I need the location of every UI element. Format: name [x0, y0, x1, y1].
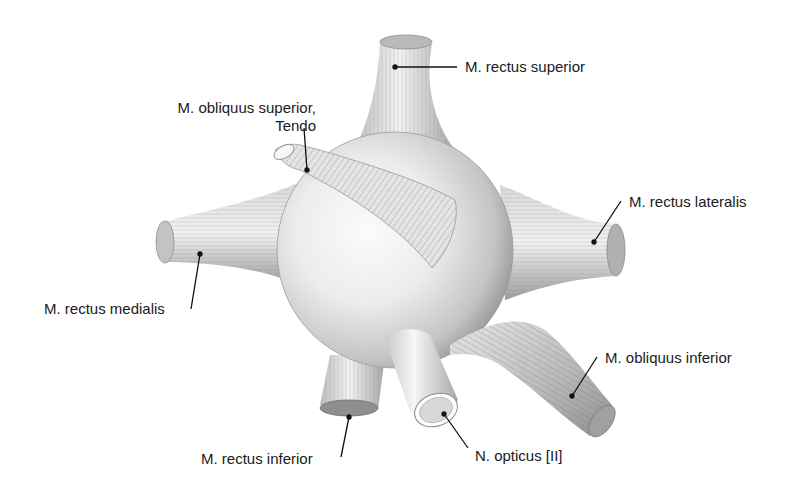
label-obliquus-inferior: M. obliquus inferior — [605, 349, 732, 367]
leader-opticus — [444, 414, 468, 448]
rectus-lateralis-muscle — [500, 185, 625, 300]
eye-muscles-illustration — [0, 0, 797, 488]
label-rectus-inferior: M. rectus inferior — [201, 450, 313, 468]
label-opticus: N. opticus [II] — [475, 447, 563, 465]
label-rectus-medialis: M. rectus medialis — [44, 300, 165, 318]
obliquus-inferior-muscle — [450, 322, 621, 442]
leader-rectus-inferior — [341, 417, 349, 457]
label-rectus-lateralis: M. rectus lateralis — [629, 193, 747, 211]
label-rectus-superior: M. rectus superior — [465, 58, 585, 76]
label-obliquus-superior-line2: Tendo — [134, 117, 316, 135]
label-obliquus-superior-line1: M. obliquus superior, — [134, 99, 316, 117]
label-obliquus-superior: M. obliquus superior, Tendo — [134, 99, 316, 135]
